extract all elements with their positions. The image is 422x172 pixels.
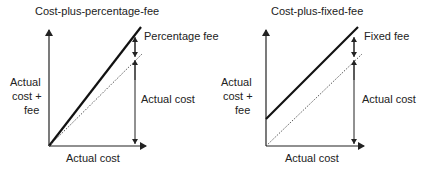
panel-title: Cost-plus-percentage-fee (35, 5, 159, 17)
y-axis-label-line-2: cost + (12, 90, 42, 102)
total-cost-line (266, 27, 358, 119)
actual-cost-reference-line (266, 54, 362, 146)
x-axis-label: Actual cost (285, 152, 339, 164)
cost-label: Actual cost (141, 93, 195, 105)
y-axis-label-line-1: Actual (10, 76, 41, 88)
y-axis-label-line-2: cost + (223, 90, 253, 102)
y-axis-label-line-1: Actual (221, 76, 252, 88)
panel-title: Cost-plus-fixed-fee (271, 5, 363, 17)
x-axis-label: Actual cost (66, 152, 120, 164)
panel-percentage-fee: Cost-plus-percentage-fee Actual cost + f… (10, 5, 219, 164)
fee-label: Fixed fee (364, 30, 409, 42)
cost-label: Actual cost (362, 93, 416, 105)
actual-cost-reference-line (49, 54, 142, 146)
fee-diagrams: Cost-plus-percentage-fee Actual cost + f… (0, 0, 422, 172)
total-cost-line (49, 27, 141, 146)
y-axis-label-line-3: fee (24, 104, 39, 116)
panel-fixed-fee: Cost-plus-fixed-fee Actual cost + fee Ac… (221, 5, 416, 164)
fee-label: Percentage fee (144, 30, 219, 42)
y-axis-label-line-3: fee (235, 104, 250, 116)
